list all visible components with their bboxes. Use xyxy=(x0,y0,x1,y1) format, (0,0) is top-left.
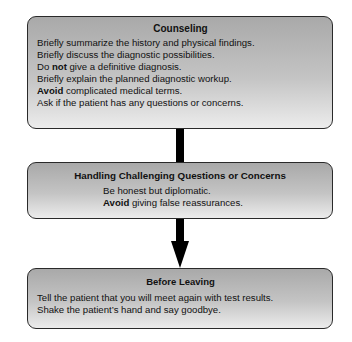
arrow-down-icon xyxy=(176,219,184,242)
counseling-line: Briefly explain the planned diagnostic w… xyxy=(37,73,324,85)
counseling-line: Ask if the patient has any questions or … xyxy=(37,97,324,109)
before-leaving-line: Shake the patient’s hand and say goodbye… xyxy=(37,304,324,316)
challenging-questions-line: Avoid giving false reassurances. xyxy=(103,197,324,209)
counseling-line: Do not give a definitive diagnosis. xyxy=(37,61,324,73)
challenging-questions-line: Be honest but diplomatic. xyxy=(103,185,324,197)
challenging-questions-title: Handling Challenging Questions or Concer… xyxy=(36,170,324,182)
before-leaving-line: Tell the patient that you will meet agai… xyxy=(37,292,324,304)
counseling-title: Counseling xyxy=(37,23,324,35)
connector-line xyxy=(176,129,184,162)
before-leaving-box: Before Leaving Tell the patient that you… xyxy=(27,268,333,329)
counseling-line: Briefly discuss the diagnostic possibili… xyxy=(37,49,324,61)
before-leaving-title: Before Leaving xyxy=(37,276,324,288)
challenging-questions-box: Handling Challenging Questions or Concer… xyxy=(27,162,333,219)
counseling-line: Briefly summarize the history and physic… xyxy=(37,37,324,49)
counseling-box: Counseling Briefly summarize the history… xyxy=(27,16,333,129)
counseling-line: Avoid complicated medical terms. xyxy=(37,85,324,97)
arrow-head-icon xyxy=(171,241,189,268)
